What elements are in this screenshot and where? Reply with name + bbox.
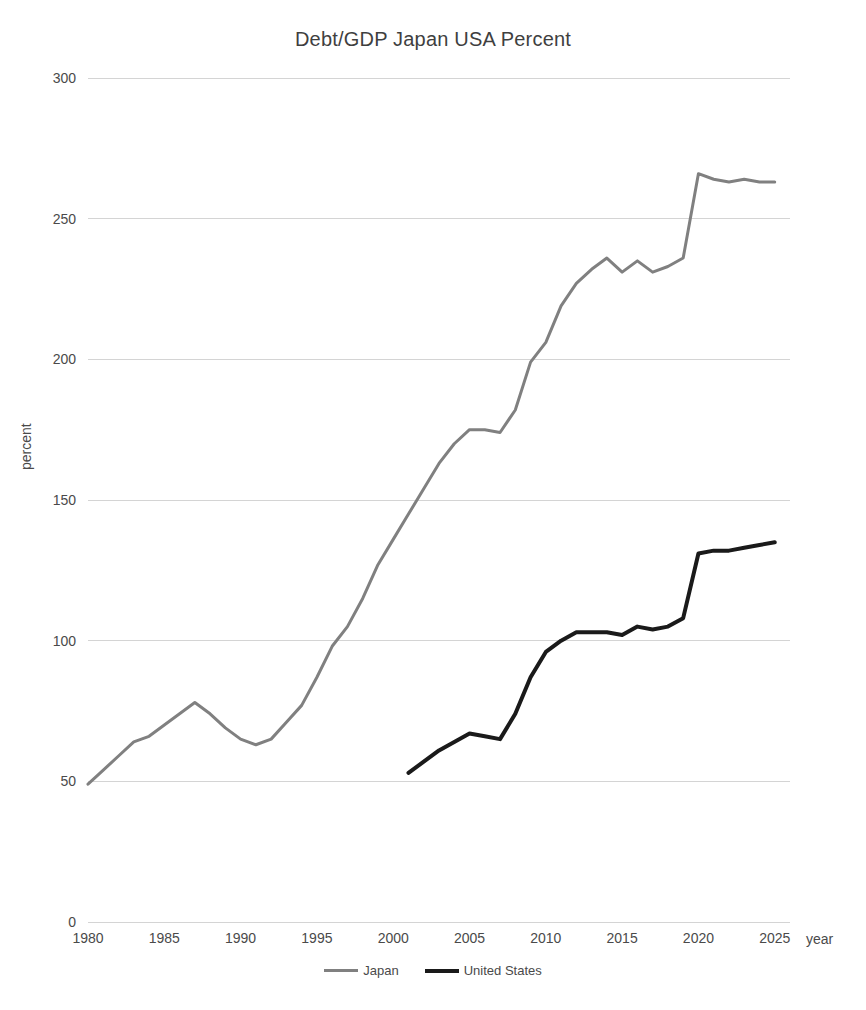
plot-area (0, 0, 866, 1010)
chart-container: Debt/GDP Japan USA Percent percent year … (0, 0, 866, 1010)
y-tick-label-150: 150 (28, 493, 76, 507)
x-tick-label-1995: 1995 (287, 931, 347, 945)
series-line-united-states (408, 542, 774, 773)
series-lines (88, 174, 775, 785)
x-tick-label-1985: 1985 (134, 931, 194, 945)
y-tick-label-250: 250 (28, 212, 76, 226)
y-tick-label-100: 100 (28, 634, 76, 648)
y-tick-label-200: 200 (28, 352, 76, 366)
x-tick-label-2000: 2000 (363, 931, 423, 945)
y-tick-label-300: 300 (28, 71, 76, 85)
series-line-japan (88, 174, 775, 785)
legend-item-japan[interactable]: Japan (324, 963, 398, 978)
x-tick-label-2005: 2005 (440, 931, 500, 945)
gridlines (88, 78, 790, 922)
x-tick-label-2015: 2015 (592, 931, 652, 945)
y-tick-label-0: 0 (28, 915, 76, 929)
y-tick-label-50: 50 (28, 774, 76, 788)
x-tick-label-1990: 1990 (211, 931, 271, 945)
legend-swatch-japan-icon (324, 969, 358, 972)
legend-swatch-united-states-icon (425, 969, 459, 973)
x-tick-label-2010: 2010 (516, 931, 576, 945)
x-tick-label-1980: 1980 (58, 931, 118, 945)
x-tick-label-2025: 2025 (745, 931, 805, 945)
x-tick-label-2020: 2020 (668, 931, 728, 945)
chart-legend: Japan United States (0, 963, 866, 978)
legend-item-united-states[interactable]: United States (425, 963, 542, 978)
legend-label-japan: Japan (363, 963, 398, 978)
legend-label-united-states: United States (464, 963, 542, 978)
